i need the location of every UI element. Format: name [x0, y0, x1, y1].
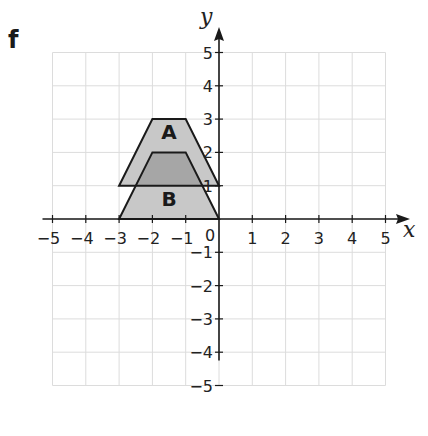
x-tick-label: 2: [281, 229, 291, 248]
y-tick-label: 4: [203, 77, 213, 96]
shape-b-label: B: [161, 187, 176, 211]
x-tick-label: 1: [247, 229, 257, 248]
y-tick-label: −2: [189, 277, 213, 296]
coordinate-grid-figure: f AB −5−4−3−2−112345−5−4−3−2−112345 x y …: [0, 0, 428, 436]
x-tick-label: −4: [70, 229, 94, 248]
y-tick-label: −3: [189, 310, 213, 329]
y-tick-label: −1: [189, 243, 213, 262]
x-tick-label: 3: [314, 229, 324, 248]
y-tick-label: 1: [203, 177, 213, 196]
x-axis-label: x: [403, 217, 416, 242]
y-tick-label: 5: [203, 44, 213, 63]
x-tick-label: −5: [37, 229, 61, 248]
y-tick-label: −5: [189, 377, 213, 396]
axes: [43, 27, 411, 361]
y-axis-label: y: [199, 4, 213, 29]
x-tick-label: −3: [103, 229, 127, 248]
x-tick-label: −2: [137, 229, 161, 248]
x-tick-label: 5: [380, 229, 390, 248]
y-tick-label: −4: [189, 343, 213, 362]
y-tick-label: 3: [203, 110, 213, 129]
x-tick-label: 4: [347, 229, 357, 248]
shapes-layer: AB: [119, 119, 219, 219]
y-tick-label: 2: [203, 143, 213, 162]
origin-label: 0: [205, 226, 215, 245]
y-axis-arrow-icon: [214, 27, 224, 41]
part-label: f: [8, 26, 19, 54]
shape-a-label: A: [161, 120, 177, 144]
